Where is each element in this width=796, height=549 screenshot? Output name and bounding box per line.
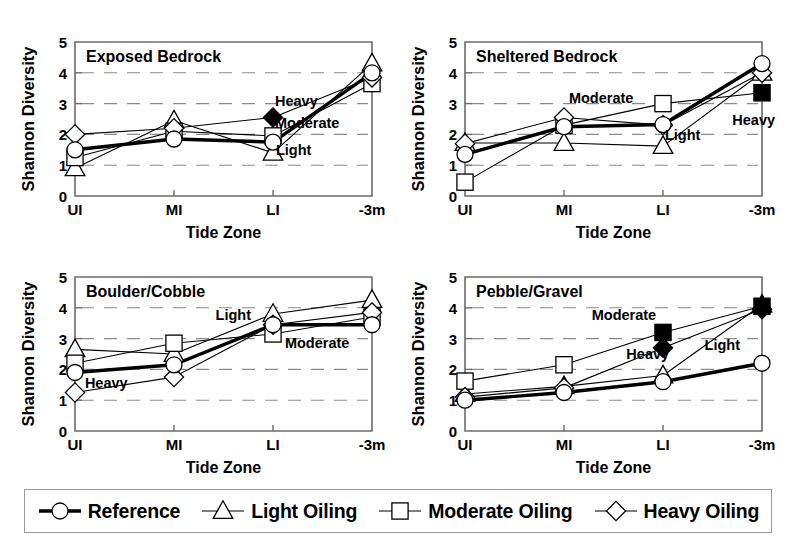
x-tick-label: MI: [166, 436, 183, 453]
legend-item-reference: Reference: [37, 498, 181, 524]
figure-legend: ReferenceLight OilingModerate OilingHeav…: [24, 489, 772, 533]
y-tick-label: 3: [449, 96, 457, 113]
y-tick-label: 5: [449, 34, 457, 51]
series-line-heavy-oiling: [465, 73, 762, 144]
diamond-marker-icon: [65, 383, 84, 402]
circle-marker-icon: [265, 317, 281, 333]
x-axis-title: Tide Zone: [186, 224, 261, 241]
x-tick-label: LI: [656, 201, 669, 218]
x-tick-label: -3m: [359, 201, 386, 218]
legend-item-heavy-oiling: Heavy Oiling: [593, 498, 760, 524]
panel-title: Boulder/Cobble: [86, 283, 205, 300]
x-tick-label: -3m: [359, 436, 386, 453]
x-tick-label: UI: [68, 201, 83, 218]
square-marker-icon: [754, 85, 770, 101]
x-tick-label: -3m: [749, 201, 776, 218]
y-tick-label: 4: [449, 65, 458, 82]
y-tick-label: 0: [59, 423, 67, 440]
diamond-marker-icon: [593, 498, 639, 524]
y-tick-label: 3: [449, 331, 457, 348]
x-tick-label: LI: [266, 436, 279, 453]
series-annotation: Heavy: [626, 346, 669, 362]
x-tick-label: MI: [556, 436, 573, 453]
x-tick-label: UI: [458, 201, 473, 218]
square-marker-icon: [166, 335, 182, 351]
y-tick-label: 4: [59, 300, 68, 317]
circle-marker-icon: [364, 317, 380, 333]
circle-marker-icon: [364, 65, 380, 81]
square-marker-icon: [457, 174, 473, 190]
chart-sheltered-bedrock: Shannon Diversity012345UIMILI-3mTide Zon…: [410, 20, 780, 245]
circle-marker-icon: [67, 364, 83, 380]
x-tick-label: MI: [166, 201, 183, 218]
circle-marker-icon: [655, 374, 671, 390]
series-annotation: Moderate: [275, 115, 339, 131]
y-tick-label: 3: [59, 96, 67, 113]
y-tick-label: 0: [449, 423, 457, 440]
y-tick-label: 5: [59, 34, 67, 51]
x-tick-label: LI: [266, 201, 279, 218]
circle-marker-icon: [556, 385, 572, 401]
plot-frame: [465, 277, 762, 431]
x-tick-label: LI: [656, 436, 669, 453]
series-annotation: Heavy: [732, 112, 775, 128]
series-annotation: Light: [276, 142, 312, 158]
shannon-diversity-figure: Shannon Diversity012345UIMILI-3mTide Zon…: [0, 0, 796, 549]
legend-label: Light Oiling: [251, 500, 357, 523]
y-tick-label: 5: [59, 269, 67, 286]
circle-marker-icon: [754, 56, 770, 72]
y-tick-label: 4: [59, 65, 68, 82]
circle-marker-icon: [457, 146, 473, 162]
series-annotation: Light: [705, 337, 741, 353]
circle-marker-icon: [457, 392, 473, 408]
legend-item-light-oiling: Light Oiling: [200, 498, 357, 524]
diamond-marker-icon: [65, 125, 84, 144]
triangle-marker-icon: [65, 339, 85, 357]
square-marker-icon: [377, 498, 423, 524]
y-tick-label: 0: [59, 188, 67, 205]
series-line-reference: [75, 73, 372, 150]
y-tick-label: 3: [59, 331, 67, 348]
series-line-light-oiling: [465, 73, 762, 146]
panel-boulder-cobble: Shannon Diversity012345UIMILI-3mTide Zon…: [20, 255, 390, 480]
chart-boulder-cobble: Shannon Diversity012345UIMILI-3mTide Zon…: [20, 255, 390, 480]
legend-label: Heavy Oiling: [644, 500, 760, 523]
square-marker-icon: [655, 96, 671, 112]
y-tick-label: 0: [449, 188, 457, 205]
y-axis-title: Shannon Diversity: [20, 46, 37, 192]
circle-marker-icon: [754, 355, 770, 371]
panel-title: Sheltered Bedrock: [476, 48, 617, 65]
circle-marker-icon: [166, 131, 182, 147]
series-line-reference: [465, 363, 762, 400]
series-annotation: Moderate: [285, 335, 349, 351]
x-tick-label: MI: [556, 201, 573, 218]
series-annotation: Moderate: [569, 90, 633, 106]
circle-marker-icon: [37, 498, 83, 524]
triangle-marker-icon: [200, 498, 246, 524]
plot-frame: [465, 42, 762, 196]
series-annotation: Heavy: [275, 93, 318, 109]
legend-label: Moderate Oiling: [428, 500, 572, 523]
square-marker-icon: [556, 357, 572, 373]
panel-sheltered-bedrock: Shannon Diversity012345UIMILI-3mTide Zon…: [410, 20, 780, 245]
y-tick-label: 2: [449, 361, 457, 378]
series-annotation: Light: [665, 127, 701, 143]
x-axis-title: Tide Zone: [186, 459, 261, 476]
chart-pebble-gravel: Shannon Diversity012345UIMILI-3mTide Zon…: [410, 255, 780, 480]
series-annotation: Light: [216, 307, 252, 323]
circle-marker-icon: [166, 357, 182, 373]
y-tick-label: 1: [449, 157, 457, 174]
panel-pebble-gravel: Shannon Diversity012345UIMILI-3mTide Zon…: [410, 255, 780, 480]
circle-marker-icon: [67, 142, 83, 158]
x-axis-title: Tide Zone: [576, 224, 651, 241]
y-tick-label: 5: [449, 269, 457, 286]
y-axis-title: Shannon Diversity: [410, 46, 427, 192]
panel-exposed-bedrock: Shannon Diversity012345UIMILI-3mTide Zon…: [20, 20, 390, 245]
x-tick-label: -3m: [749, 436, 776, 453]
y-tick-label: 1: [59, 392, 67, 409]
y-tick-label: 2: [59, 361, 67, 378]
series-annotation: Moderate: [592, 307, 656, 323]
legend-item-moderate-oiling: Moderate Oiling: [377, 498, 572, 524]
legend-label: Reference: [88, 500, 181, 523]
triangle-marker-icon: [554, 133, 574, 151]
